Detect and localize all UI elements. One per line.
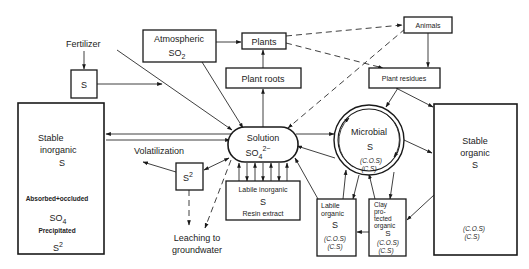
svg-text:(C.S): (C.S) — [378, 247, 393, 255]
svg-text:S: S — [81, 80, 87, 90]
arrow-stable-organic-to-clay — [407, 195, 434, 220]
leaching-label: Leaching to groundwater — [172, 233, 222, 255]
svg-text:groundwater: groundwater — [172, 245, 222, 255]
arrow-residues-to-stable-organic — [396, 88, 433, 107]
arrow-labile-organic-to-microbial — [343, 170, 346, 199]
svg-text:Stable: Stable — [462, 136, 488, 146]
arrow-plants-to-animals — [286, 25, 402, 36]
svg-text:Precipitated: Precipitated — [38, 227, 75, 235]
fertilizer-label: Fertilizer — [66, 39, 101, 49]
svg-text:(C.O.S): (C.O.S) — [360, 157, 382, 165]
svg-text:(C.S): (C.S) — [464, 233, 479, 241]
atmospheric-so2-box: Atmospheric SO2 — [143, 30, 216, 62]
solution-so4-node: Solution SO42− — [228, 127, 298, 162]
arrows-solution-labile-inorganic — [239, 163, 287, 181]
svg-text:Microbial: Microbial — [351, 127, 387, 137]
plant-roots-box: Plant roots — [226, 68, 301, 88]
fertilizer-s-box: S — [71, 70, 97, 98]
svg-text:Plants: Plants — [251, 37, 277, 47]
plants-box: Plants — [242, 33, 286, 49]
animals-box: Animals — [404, 17, 452, 33]
clay-protected-organic-s-box: Clay pro- tected organic S (C.O.S) (C.S) — [369, 199, 406, 256]
svg-text:S: S — [367, 142, 373, 152]
svg-text:Animals: Animals — [416, 22, 441, 29]
svg-text:S: S — [472, 160, 478, 170]
arrow-s2-to-volatilization — [143, 162, 176, 172]
s2-box: S2 — [176, 163, 203, 190]
svg-text:Stable: Stable — [38, 133, 64, 143]
svg-text:Atmospheric: Atmospheric — [154, 34, 205, 44]
svg-text:Labile: Labile — [321, 202, 340, 209]
svg-text:(C.O.S): (C.O.S) — [324, 235, 346, 243]
svg-text:organic: organic — [460, 148, 490, 158]
svg-text:inorganic: inorganic — [40, 145, 77, 155]
svg-text:Absorbed+occluded: Absorbed+occluded — [26, 195, 89, 202]
arrow-residues-to-microbial — [386, 88, 398, 107]
microbial-s-node: Microbial S (C.O.S) (C.S) — [334, 105, 404, 175]
svg-text:(C.O.S): (C.O.S) — [463, 225, 485, 233]
arrow-microbial-to-stable-organic — [404, 140, 432, 153]
arrow-s2-solution — [204, 158, 229, 170]
svg-text:tected: tected — [374, 215, 392, 222]
svg-text:Labile inorganic: Labile inorganic — [238, 186, 288, 194]
svg-text:Resin extract: Resin extract — [243, 210, 284, 217]
labile-inorganic-box: Labile inorganic S Resin extract — [226, 181, 300, 220]
svg-text:S: S — [260, 197, 266, 207]
svg-text:(C.S): (C.S) — [327, 243, 342, 251]
svg-text:S: S — [59, 158, 65, 168]
labile-organic-s-box: Labile organic S (C.O.S) (C.S) — [317, 199, 356, 256]
arrow-microbial-to-clay — [390, 172, 394, 199]
arrow-plants-to-residues — [286, 43, 383, 68]
svg-text:organic: organic — [321, 210, 344, 218]
stable-organic-s-box: Stable organic S (C.O.S) (C.S) — [434, 104, 517, 255]
svg-text:Leaching to: Leaching to — [174, 233, 221, 243]
svg-text:(C.O.S): (C.O.S) — [377, 239, 399, 247]
stable-inorganic-s-box: Stable inorganic S Absorbed+occluded SO4… — [18, 103, 104, 254]
arrow-microbial-to-solution — [297, 146, 335, 158]
svg-text:(C.S): (C.S) — [361, 165, 376, 173]
svg-text:Plant residues: Plant residues — [382, 75, 427, 82]
plant-residues-box: Plant residues — [369, 68, 440, 88]
arrow-clay-to-microbial — [369, 174, 375, 199]
svg-text:Solution: Solution — [247, 133, 280, 143]
volatilization-label: Volatilization — [134, 146, 184, 156]
svg-text:Plant roots: Plant roots — [241, 74, 285, 84]
arrow-microbial-to-labile-organic — [353, 175, 359, 199]
svg-text:S: S — [332, 220, 338, 230]
sulfur-cycle-diagram: Fertilizer S Atmospheric SO2 Plants Plan… — [0, 0, 529, 269]
svg-text:S: S — [385, 229, 390, 238]
